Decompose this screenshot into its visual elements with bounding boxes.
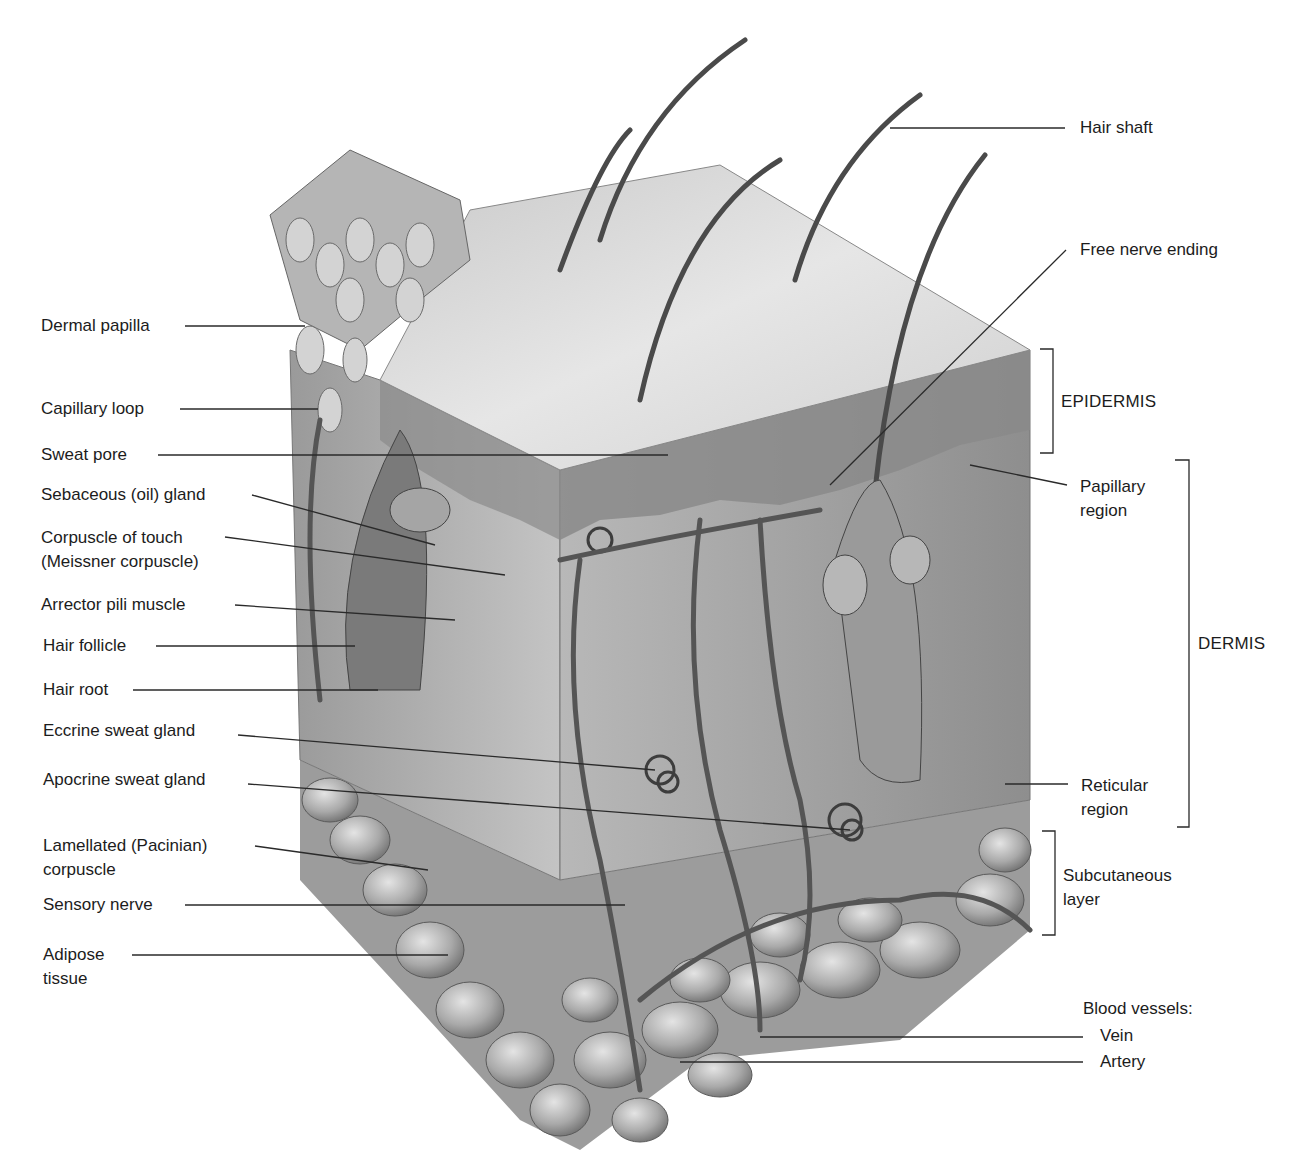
label-sensory-nerve: Sensory nerve — [43, 893, 153, 917]
label-papillary-region: Papillary region — [1080, 475, 1145, 523]
label-adipose-tissue: Adipose tissue — [43, 943, 104, 991]
label-hair-follicle: Hair follicle — [43, 634, 126, 658]
leader-arrector-pili — [235, 605, 455, 620]
label-hair-shaft: Hair shaft — [1080, 116, 1153, 140]
leader-sebaceous-gland — [252, 495, 435, 545]
label-dermis: DERMIS — [1198, 632, 1265, 656]
label-hair-root: Hair root — [43, 678, 108, 702]
label-eccrine-sweat-gland: Eccrine sweat gland — [43, 719, 195, 743]
bracket-dermis — [1175, 460, 1189, 827]
label-sebaceous-gland: Sebaceous (oil) gland — [41, 483, 205, 507]
leader-corpuscle-of-touch — [225, 537, 505, 575]
skin-diagram: Dermal papilla Capillary loop Sweat pore… — [0, 0, 1311, 1176]
label-corpuscle-of-touch: Corpuscle of touch (Meissner corpuscle) — [41, 526, 199, 574]
leader-apocrine — [248, 784, 850, 830]
label-free-nerve-ending: Free nerve ending — [1080, 238, 1218, 262]
label-lamellated-corpuscle: Lamellated (Pacinian) corpuscle — [43, 834, 207, 882]
label-subcutaneous-layer: Subcutaneous layer — [1063, 864, 1172, 912]
leader-eccrine — [238, 735, 655, 770]
label-apocrine-sweat-gland: Apocrine sweat gland — [43, 768, 206, 792]
leader-lamellated — [255, 846, 428, 870]
leader-free-nerve-ending — [830, 250, 1066, 485]
label-sweat-pore: Sweat pore — [41, 443, 127, 467]
label-epidermis: EPIDERMIS — [1061, 390, 1156, 414]
label-capillary-loop: Capillary loop — [41, 397, 144, 421]
label-blood-vessels: Blood vessels: — [1083, 997, 1193, 1021]
label-vein: Vein — [1100, 1024, 1133, 1048]
label-artery: Artery — [1100, 1050, 1145, 1074]
label-dermal-papilla: Dermal papilla — [41, 314, 150, 338]
bracket-epidermis — [1040, 349, 1053, 453]
bracket-subcutaneous — [1042, 831, 1055, 935]
leader-papillary-region — [970, 465, 1067, 485]
label-arrector-pili: Arrector pili muscle — [41, 593, 186, 617]
label-reticular-region: Reticular region — [1081, 774, 1148, 822]
